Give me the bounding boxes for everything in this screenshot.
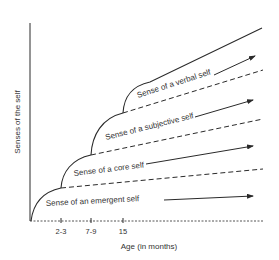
x-tick-label-2-3: 2-3 bbox=[56, 227, 67, 236]
senses-of-self-diagram: 2-3 7-9 15 Age (in months) Senses of the… bbox=[0, 0, 279, 260]
x-tick-label-7-9: 7-9 bbox=[86, 227, 97, 236]
subjective-self-label: Sense of a subjective self bbox=[104, 111, 195, 142]
emergent-self-label: Sense of an emergent self bbox=[46, 194, 141, 208]
verbal-self-arrow bbox=[214, 56, 255, 75]
x-tick-label-15: 15 bbox=[119, 227, 127, 236]
core-self-arrow bbox=[146, 146, 253, 164]
core-self-label: Sense of a core self bbox=[73, 160, 145, 178]
y-axis-title: Senses of the self bbox=[13, 89, 22, 153]
verbal-self-curve bbox=[123, 28, 262, 113]
subjective-self-arrow bbox=[195, 100, 253, 117]
emergent-self-arrow bbox=[164, 196, 253, 200]
x-axis-title: Age (in months) bbox=[121, 242, 178, 251]
verbal-self-label: Sense of a verbal self bbox=[136, 67, 213, 100]
